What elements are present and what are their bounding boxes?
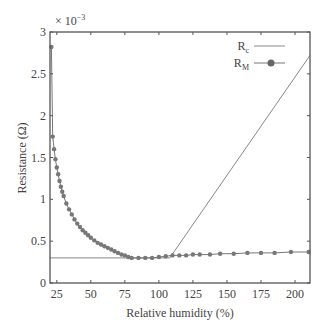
data-point-rm (61, 194, 65, 198)
data-point-rm (218, 252, 222, 256)
data-point-rm (208, 252, 212, 256)
data-point-rm (70, 212, 74, 216)
data-point-rm (129, 256, 133, 260)
y-multiplier: × 10−3 (55, 13, 85, 28)
x-tick-label: 150 (218, 287, 236, 301)
y-tick-label: 1.5 (31, 151, 46, 165)
x-tick-label: 50 (85, 287, 97, 301)
data-point-rm (191, 252, 195, 256)
data-point-rm (53, 157, 57, 161)
data-point-rm (59, 185, 63, 189)
data-point-rm (198, 252, 202, 256)
data-point-rm (56, 172, 60, 176)
chart: 255075100125150175200 00.511.522.53 × 10… (0, 0, 326, 328)
y-tick-label: 2 (40, 109, 46, 123)
data-point-rm (232, 252, 236, 256)
data-point-rm (259, 251, 263, 255)
data-point-rm (170, 253, 174, 257)
data-point-rm (184, 253, 188, 257)
series-line-rc (50, 55, 310, 258)
x-tick-label: 125 (184, 287, 202, 301)
data-point-rm (67, 207, 71, 211)
data-point-rm (245, 251, 249, 255)
y-tick-label: 1 (40, 192, 46, 206)
y-axis-title: Resistance (Ω) (15, 122, 29, 193)
series-line-rm (51, 47, 308, 258)
data-point-rm (272, 251, 276, 255)
data-point-rm (64, 201, 68, 205)
data-point-rm (136, 256, 140, 260)
x-tick-label: 75 (119, 287, 131, 301)
x-tick-label: 100 (150, 287, 168, 301)
legend-label-rc: Rc (237, 39, 249, 55)
legend-marker-rm (268, 60, 275, 67)
data-point-rm (150, 256, 154, 260)
y-tick-label: 0.5 (31, 234, 46, 248)
data-point-rm (289, 250, 293, 254)
x-axis-ticks: 255075100125150175200 (51, 32, 304, 301)
legend-label-rm: RM (234, 56, 249, 72)
data-point-rm (52, 147, 56, 151)
y-tick-label: 3 (40, 25, 46, 39)
data-point-rm (164, 254, 168, 258)
x-tick-label: 200 (286, 287, 304, 301)
legend: Rc RM (234, 39, 285, 72)
data-point-rm (157, 255, 161, 259)
x-tick-label: 25 (51, 287, 63, 301)
data-point-rm (60, 190, 64, 194)
plot-series (49, 45, 311, 260)
y-tick-label: 0 (40, 276, 46, 290)
data-point-rm (72, 217, 76, 221)
data-point-rm (57, 179, 61, 183)
data-point-rm (51, 134, 55, 138)
plot-frame (50, 32, 310, 283)
data-point-rm (143, 256, 147, 260)
y-tick-label: 2.5 (31, 67, 46, 81)
x-tick-label: 175 (252, 287, 270, 301)
data-point-rm (55, 165, 59, 169)
x-axis-title: Relative humidity (%) (126, 306, 233, 320)
data-point-rm (177, 253, 181, 257)
